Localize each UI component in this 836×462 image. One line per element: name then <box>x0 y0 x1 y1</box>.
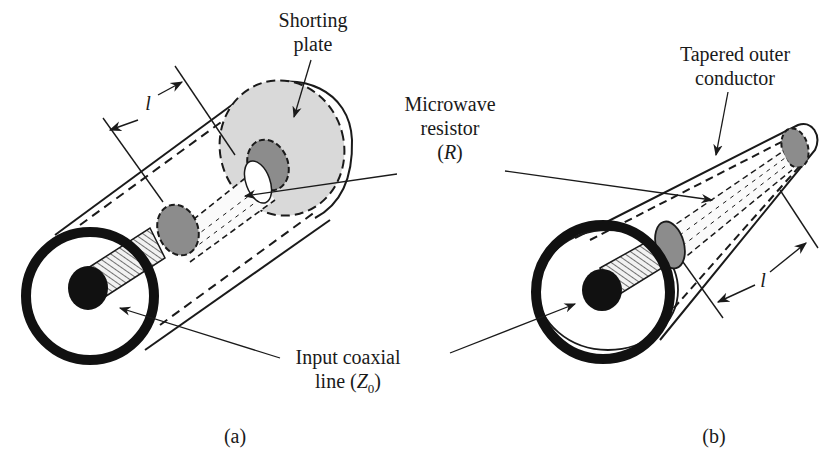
length-label-b: l <box>756 268 770 292</box>
caption-b: (b) <box>694 424 734 448</box>
panel-a <box>26 60 397 360</box>
input-impedance-symbol: line (Z0) <box>283 369 413 401</box>
length-label-a: l <box>141 91 155 115</box>
coaxial-terminations-figure: Shorting plate l Microwave resistor (R) … <box>0 0 836 462</box>
caption-a: (a) <box>215 424 255 448</box>
resistor-symbol: (R) <box>395 140 505 164</box>
label-input-coaxial-line: Input coaxial line (Z0) <box>283 345 413 401</box>
label-microwave-resistor: Microwave resistor (R) <box>395 92 505 164</box>
leader-tapered <box>716 92 728 155</box>
length-dimension-a <box>103 66 235 202</box>
panel-b <box>450 92 818 359</box>
leader-resistor-b <box>505 171 712 200</box>
label-shorting-plate: Shorting plate <box>268 8 358 56</box>
label-tapered-outer-conductor: Tapered outer conductor <box>665 42 805 90</box>
